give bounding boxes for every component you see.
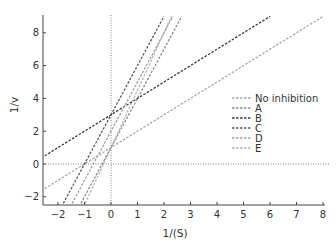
y-tick-label: 4 (33, 93, 39, 104)
legend-item: No inhibition (232, 93, 318, 104)
x-tick-label: 1 (134, 209, 140, 220)
y-tick-label: −2 (24, 191, 39, 202)
x-tick-label: 8 (320, 209, 326, 220)
series-line-b (45, 16, 270, 155)
legend-label: E (255, 143, 261, 154)
y-tick-label: 0 (33, 159, 39, 170)
x-tick-label: 6 (267, 209, 273, 220)
legend-label: No inhibition (255, 93, 318, 104)
y-tick-label: 8 (33, 27, 39, 38)
legend-item: E (232, 143, 261, 154)
y-tick-label: 6 (33, 60, 39, 71)
x-tick-label: 0 (108, 209, 114, 220)
x-tick-label: 3 (187, 209, 193, 220)
x-tick-label: 4 (214, 209, 220, 220)
y-axis-label: 1/v (8, 97, 20, 113)
series-line-a (81, 16, 182, 203)
x-tick-label: 5 (240, 209, 246, 220)
series-line-d (72, 16, 173, 203)
axes (43, 15, 325, 205)
x-tick-label: −1 (77, 209, 92, 220)
series-line-e (85, 16, 171, 203)
x-axis-label: 1/(S) (162, 227, 187, 239)
x-tick-label: 7 (293, 209, 299, 220)
series-line-c (63, 16, 164, 203)
x-tick-label: 2 (161, 209, 167, 220)
y-tick-label: 2 (33, 126, 39, 137)
legend: No inhibitionABCDE (232, 93, 318, 154)
x-tick-label: −2 (51, 209, 66, 220)
series-lines (45, 16, 323, 203)
lineweaver-burk-chart: −2−1012345678 −202468 1/(S) 1/v No inhib… (0, 0, 336, 245)
